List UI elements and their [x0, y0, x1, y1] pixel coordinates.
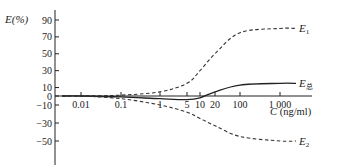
x-tick-label: 100: [233, 99, 248, 110]
y-tick-label: −30: [36, 118, 52, 129]
series-lines: [62, 28, 296, 141]
series-line-E2: [62, 96, 296, 142]
series-line-E1: [62, 28, 296, 96]
series-labels: E1E总E2: [298, 22, 313, 149]
y-tick-label: −50: [36, 136, 52, 147]
series-label-E总: E总: [298, 77, 313, 91]
series-line-E总: [62, 83, 296, 99]
x-tick-label: 0.1: [115, 99, 128, 110]
series-label-E1: E1: [298, 22, 310, 36]
x-ticks: 0.010.11510201001 000: [72, 92, 291, 110]
y-tick-label: 70: [42, 31, 52, 42]
y-tick-label: 50: [42, 48, 52, 59]
series-label-E2: E2: [298, 135, 310, 149]
x-tick-label: 5: [185, 99, 190, 110]
x-tick-label: 0.01: [72, 99, 90, 110]
x-tick-label: 20: [210, 99, 220, 110]
y-tick-label: 30: [42, 65, 52, 76]
chart: 90705030100−10−30−50 0.010.11510201001 0…: [0, 0, 337, 168]
y-ticks: 90705030100−10−30−50: [36, 15, 59, 147]
x-tick-label: 10: [195, 99, 205, 110]
y-tick-label: 90: [42, 15, 52, 26]
y-tick-label: −10: [36, 100, 52, 111]
y-axis-label: E(%): [4, 13, 29, 26]
x-axis-label: C (ng/ml): [270, 106, 312, 118]
